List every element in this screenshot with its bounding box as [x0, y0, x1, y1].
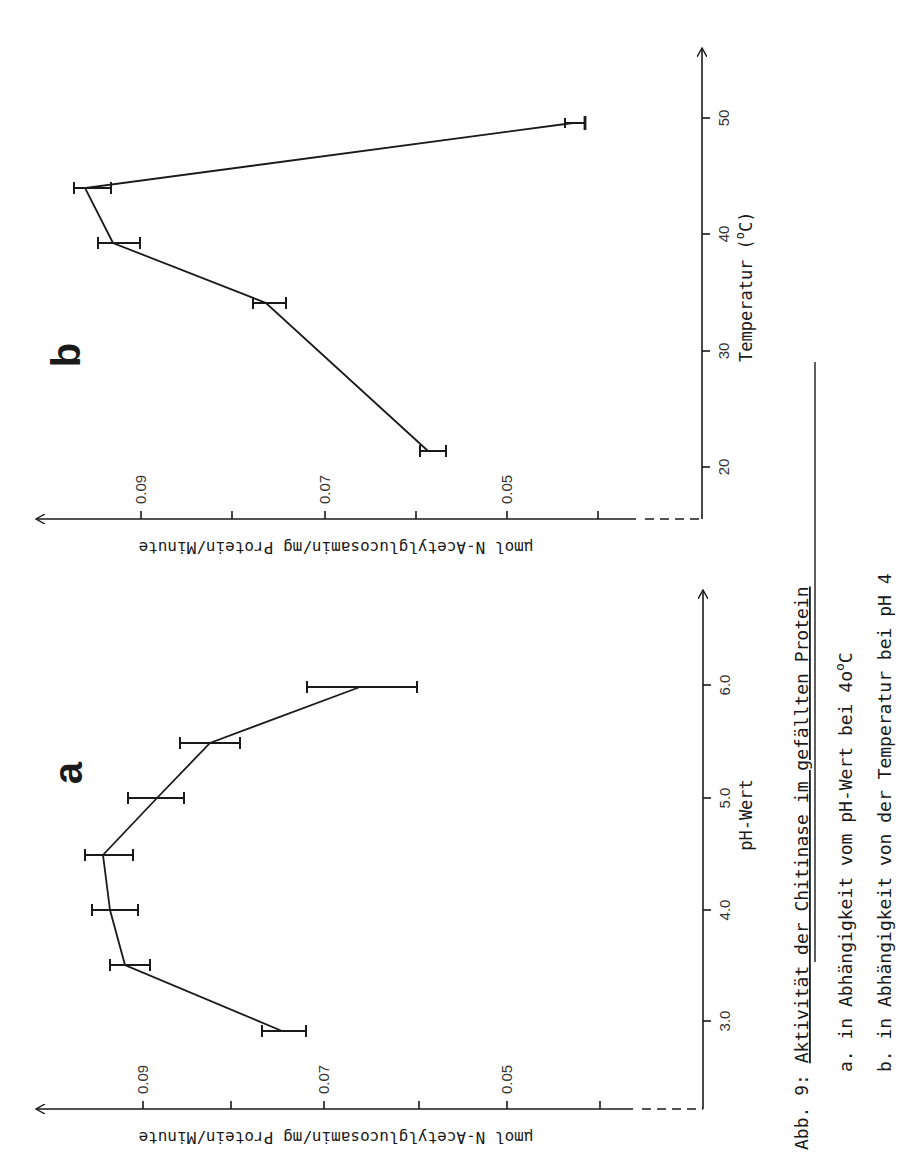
chart-b-y-ticks — [141, 511, 598, 519]
caption-prefix: Abb. 9: — [791, 1074, 812, 1150]
chart-a-x-tick-labels: 3.0 4.0 5.0 6.0 — [716, 675, 733, 1032]
chart-b-series-line — [85, 123, 573, 451]
chart-a-ytick-005: 0.05 — [498, 1065, 515, 1094]
caption-line-b: b. in Abhängigkeit von der Temperatur be… — [874, 574, 895, 1073]
chart-a-xtick-40: 4.0 — [716, 900, 733, 921]
chart-a-x-axis-label: pH-Wert — [736, 779, 756, 851]
caption-line-a: a. in Abhängigkeit vom pH-Wert bei 4ooC — [832, 652, 856, 1072]
chart-a-xtick-30: 3.0 — [716, 1011, 733, 1032]
chart-b-xtick-30: 30 — [715, 343, 732, 360]
chart-b-xtick-50: 50 — [715, 110, 732, 127]
figure-caption: Abb. 9: Aktivität der Chitinase im gefäl… — [791, 362, 895, 1150]
caption-title-text: Aktivität der Chitinase im gefällten Pro… — [791, 586, 812, 1063]
chart-b-xtick-20: 20 — [715, 459, 732, 476]
chart-a-xtick-50: 5.0 — [716, 788, 733, 809]
chart-a-series-line — [103, 687, 360, 1031]
chart-b-y-tick-labels: 0.09 0.07 0.05 — [132, 475, 515, 504]
chart-b-ytick-009: 0.09 — [132, 475, 149, 504]
chart-b-xtick-40: 40 — [715, 226, 732, 243]
chart-b-x-axis-label: Temperatur (oC) — [733, 211, 756, 362]
caption-title: Abb. 9: Aktivität der Chitinase im gefäl… — [791, 586, 812, 1150]
chart-a-x-ticks — [703, 685, 711, 1021]
chart-a-y-axis-label: µmol N-Acetylglucosamin/mg Protein/Minut… — [139, 1128, 534, 1147]
chart-b-ytick-005: 0.05 — [498, 475, 515, 504]
chart-a-y-tick-labels: 0.09 0.07 0.05 — [134, 1065, 515, 1094]
chart-b-x-ticks — [702, 118, 710, 467]
chart-b-ytick-007: 0.07 — [316, 475, 333, 504]
chart-a — [36, 590, 711, 1109]
chart-a-y-ticks — [143, 1101, 600, 1109]
figure-canvas: b 0.09 0.07 0.05 µmol N-Acetylglucosamin… — [0, 0, 918, 1165]
chart-a-error-bars — [85, 681, 417, 1037]
panel-label-a: a — [46, 761, 90, 784]
panel-label-b: b — [44, 343, 88, 367]
chart-a-ytick-009: 0.09 — [134, 1065, 151, 1094]
chart-b-x-tick-labels: 20 30 40 50 — [715, 110, 732, 476]
chart-b-error-bars — [74, 116, 585, 457]
chart-b-y-axis-label: µmol N-Acetylglucosamin/mg Protein/Minut… — [139, 538, 534, 557]
chart-a-xtick-60: 6.0 — [716, 675, 733, 696]
chart-b — [36, 48, 710, 519]
chart-a-ytick-007: 0.07 — [315, 1065, 332, 1094]
